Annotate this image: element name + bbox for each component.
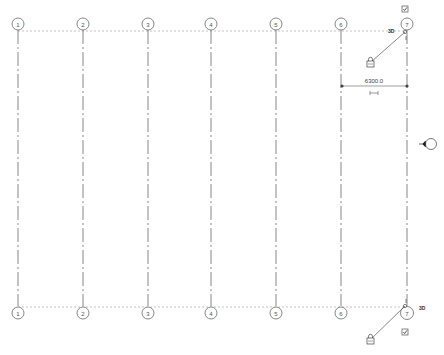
top-lock-leader bbox=[371, 32, 405, 62]
top-lock-icon[interactable] bbox=[367, 57, 374, 67]
bottom-grid-bubbles bbox=[12, 307, 414, 320]
bottom-visibility-checkbox[interactable] bbox=[402, 329, 408, 335]
dimension-equality-icon[interactable] bbox=[370, 91, 378, 95]
elevation-marker-icon[interactable] bbox=[419, 139, 437, 150]
grid-lines bbox=[18, 30, 407, 306]
bottom-3d-extent-tag[interactable]: 3D bbox=[419, 305, 426, 311]
dimension-value-text[interactable]: 6300.0 bbox=[365, 78, 384, 84]
bottom-lock-icon[interactable] bbox=[367, 334, 374, 344]
bottom-lock-leader bbox=[371, 306, 405, 339]
top-visibility-checkbox[interactable] bbox=[402, 6, 408, 12]
drawing-canvas[interactable]: 1 2 3 4 5 6 7 1 2 3 4 5 6 7 3D bbox=[0, 0, 444, 355]
top-3d-extent-tag[interactable]: 3D bbox=[388, 28, 395, 34]
aligned-dimension[interactable] bbox=[340, 84, 408, 87]
